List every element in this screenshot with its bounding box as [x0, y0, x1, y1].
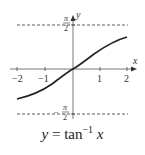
y-axis-arrow: [71, 15, 76, 21]
tick-label-m2: −2: [12, 73, 23, 84]
upper-two-label: 2: [64, 24, 68, 33]
tick-label-m1: −1: [38, 73, 49, 84]
function-caption: y = tan−1 x: [0, 124, 145, 143]
tick-label-1: 1: [97, 73, 102, 84]
upper-pi-label: π: [64, 14, 69, 23]
x-axis-label: x: [132, 55, 138, 66]
lower-pi-label: π: [63, 103, 68, 112]
y-axis-label: y: [75, 9, 81, 20]
lower-minus-label: −: [54, 108, 59, 117]
caption-eq: =: [48, 126, 64, 142]
lower-two-label: 2: [63, 113, 67, 120]
x-axis-arrow: [131, 67, 137, 72]
caption-sup: −1: [82, 124, 93, 135]
arctan-plot: x y −2 −1 1 2 π 2 − π 2: [0, 0, 145, 120]
caption-fn: tan: [64, 126, 82, 142]
caption-x: x: [93, 126, 103, 142]
tick-label-2: 2: [124, 73, 129, 84]
arctan-curve: [17, 37, 127, 99]
